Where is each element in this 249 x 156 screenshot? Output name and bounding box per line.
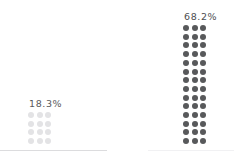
dot-row <box>183 51 206 57</box>
dot-grid-right <box>183 25 206 144</box>
dot-unit <box>37 138 43 144</box>
dot-unit <box>192 138 198 144</box>
dot-unit <box>183 34 189 40</box>
dot-row <box>183 34 206 40</box>
dot-pictogram-chart: 18.3% 68.2% <box>0 0 249 156</box>
dot-row <box>183 69 206 75</box>
dot-unit <box>200 129 206 135</box>
dot-unit <box>192 51 198 57</box>
dot-unit <box>45 112 51 118</box>
dot-row <box>28 121 51 127</box>
dot-unit <box>45 129 51 135</box>
dot-unit <box>200 77 206 83</box>
dot-unit <box>200 103 206 109</box>
dot-unit <box>183 129 189 135</box>
dot-unit <box>183 103 189 109</box>
dot-unit <box>28 121 34 127</box>
baseline-rule-right <box>148 150 234 151</box>
dot-unit <box>192 121 198 127</box>
dot-unit <box>192 95 198 101</box>
dot-unit <box>183 95 189 101</box>
dot-unit <box>200 138 206 144</box>
dot-unit <box>200 51 206 57</box>
dot-unit <box>183 42 189 48</box>
dot-row <box>183 121 206 127</box>
dot-row <box>28 112 51 118</box>
dot-row <box>183 112 206 118</box>
dot-unit <box>28 129 34 135</box>
dot-unit <box>183 86 189 92</box>
dot-unit <box>200 69 206 75</box>
dot-row <box>183 138 206 144</box>
dot-unit <box>37 121 43 127</box>
dot-group-left-label: 18.3% <box>28 98 62 109</box>
dot-unit <box>192 77 198 83</box>
dot-unit <box>192 25 198 31</box>
dot-unit <box>192 60 198 66</box>
dot-unit <box>192 103 198 109</box>
dot-unit <box>200 60 206 66</box>
dot-row <box>183 77 206 83</box>
dot-unit <box>183 69 189 75</box>
dot-unit <box>192 42 198 48</box>
dot-unit <box>37 129 43 135</box>
dot-row <box>183 86 206 92</box>
dot-unit <box>28 112 34 118</box>
dot-unit <box>192 129 198 135</box>
dot-unit <box>183 60 189 66</box>
dot-unit <box>200 34 206 40</box>
dot-unit <box>183 121 189 127</box>
baseline-rule-left <box>0 150 107 151</box>
dot-unit <box>192 86 198 92</box>
dot-unit <box>200 86 206 92</box>
dot-unit <box>200 112 206 118</box>
dot-row <box>183 129 206 135</box>
dot-unit <box>183 25 189 31</box>
dot-group-right-label: 68.2% <box>183 11 217 22</box>
dot-row <box>183 95 206 101</box>
dot-unit <box>192 34 198 40</box>
dot-unit <box>45 138 51 144</box>
dot-row <box>183 60 206 66</box>
dot-unit <box>200 25 206 31</box>
dot-row <box>183 25 206 31</box>
dot-unit <box>37 112 43 118</box>
dot-row <box>183 42 206 48</box>
dot-group-left: 18.3% <box>28 98 62 144</box>
dot-unit <box>45 121 51 127</box>
dot-unit <box>192 69 198 75</box>
dot-unit <box>200 95 206 101</box>
dot-unit <box>200 42 206 48</box>
dot-grid-left <box>28 112 51 144</box>
dot-unit <box>183 138 189 144</box>
dot-unit <box>200 121 206 127</box>
dot-unit <box>183 77 189 83</box>
dot-row <box>183 103 206 109</box>
dot-unit <box>183 112 189 118</box>
dot-row <box>28 138 51 144</box>
dot-unit <box>28 138 34 144</box>
dot-row <box>28 129 51 135</box>
dot-group-right: 68.2% <box>183 11 217 144</box>
dot-unit <box>183 51 189 57</box>
dot-unit <box>192 112 198 118</box>
